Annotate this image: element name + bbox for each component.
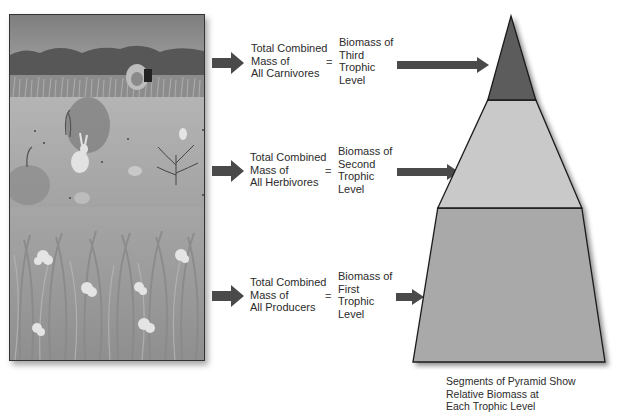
pyramid-graphic xyxy=(405,10,615,370)
biomass-pyramid xyxy=(405,10,615,374)
pyramid-segment-first-trophic xyxy=(413,208,605,362)
equals-sign: = xyxy=(325,165,331,177)
squirrel-herbivore xyxy=(128,166,142,176)
carnivore-mass-label: Total Combined Mass of All Carnivores xyxy=(251,42,327,80)
first-trophic-biomass-label: Biomass of First Trophic Level xyxy=(338,270,392,320)
pyramid-caption: Segments of Pyramid Show Relative Biomas… xyxy=(446,375,576,413)
third-trophic-biomass-label: Biomass of Third Trophic Level xyxy=(339,36,393,86)
right-arrow-icon xyxy=(212,285,244,307)
squirrel-herbivore xyxy=(74,192,90,204)
pyramid-segment-second-trophic xyxy=(438,100,582,208)
equals-sign: = xyxy=(326,56,332,68)
producer-mass-label: Total Combined Mass of All Producers xyxy=(250,276,326,314)
ecosystem-illustration xyxy=(9,14,205,361)
second-trophic-biomass-label: Biomass of Second Trophic Level xyxy=(338,145,392,195)
arrow-producers-to-text xyxy=(212,285,244,307)
equals-sign: = xyxy=(325,290,331,302)
right-arrow-icon xyxy=(212,160,244,182)
arrow-carnivores-to-text xyxy=(212,52,244,74)
arrow-herbivores-to-text xyxy=(212,160,244,182)
grassland-scene-graphic xyxy=(10,15,204,360)
pyramid-segment-third-trophic xyxy=(488,16,536,100)
right-arrow-icon xyxy=(212,52,244,74)
bird-herbivore xyxy=(179,128,187,140)
herbivore-mass-label: Total Combined Mass of All Herbivores xyxy=(250,151,326,189)
